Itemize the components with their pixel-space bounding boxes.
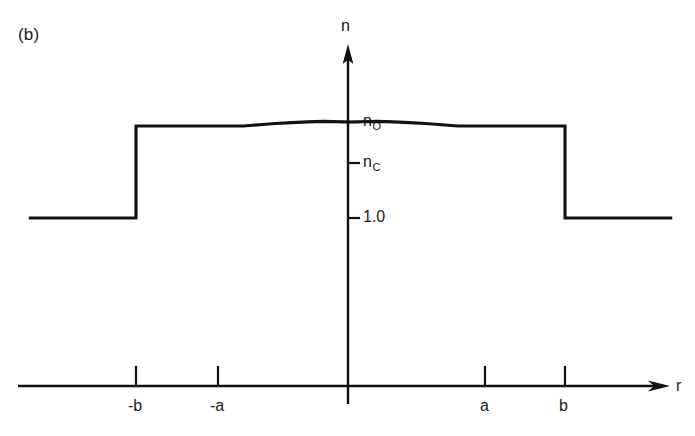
x-tick-label-a: a xyxy=(480,398,489,414)
x-tick-label-minus-b: -b xyxy=(128,398,142,414)
y-tick-label-nc-subscript: C xyxy=(372,161,380,173)
figure-canvas xyxy=(0,0,695,436)
y-tick-label-n0-base: n xyxy=(363,112,372,129)
y-tick-label-one: 1.0 xyxy=(363,209,385,225)
refractive-index-profile-figure: (b) n r nO nC 1.0 -b -a a b xyxy=(0,0,695,436)
x-tick-label-minus-a: -a xyxy=(210,398,224,414)
y-tick-label-nc-base: n xyxy=(363,153,372,170)
y-tick-label-n0: nO xyxy=(363,113,380,129)
x-tick-label-b: b xyxy=(559,398,568,414)
index-profile-curve xyxy=(29,121,673,218)
y-tick-label-nc: nC xyxy=(363,154,380,170)
x-axis-group xyxy=(18,366,670,392)
x-axis-label: r xyxy=(676,378,681,394)
panel-label: (b) xyxy=(18,26,39,43)
y-axis-label: n xyxy=(341,18,350,34)
y-axis-group xyxy=(340,44,360,404)
y-tick-label-n0-subscript: O xyxy=(372,120,381,132)
index-profile-curve-group xyxy=(29,121,673,218)
